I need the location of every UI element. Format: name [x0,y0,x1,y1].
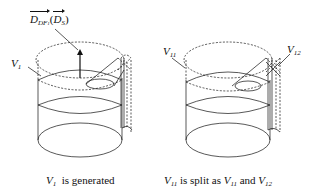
caption-var1: V [164,174,171,186]
caption-text2: and [240,174,256,186]
v11-leader-line [172,58,185,68]
right-cylinder [184,42,280,157]
v12-label-base: V [287,43,294,55]
v1-label-sub: 1 [18,63,22,71]
caption-text1: is split as [180,174,221,186]
caption-var3-sub: 12 [265,180,272,188]
paren-close: ) [65,13,69,25]
vector-arrow-icon [77,49,83,78]
vector-label: DDF1(DS) [30,14,69,27]
left-cylinder [36,42,132,157]
v11-label: V11 [163,46,176,59]
caption-var1-sub: 11 [171,180,177,188]
right-caption: V11 is split as V11 and V12 [164,175,272,188]
v12-label-sub: 12 [294,49,301,57]
v1-label: V1 [11,58,21,71]
v12-label: V12 [287,44,301,57]
caption-var-sub: 1 [53,180,57,188]
left-caption: V1 is generated [46,175,115,188]
vector-arg-sub: S [61,19,65,27]
vector-label-base: D [30,13,38,25]
v11-label-sub: 11 [170,51,176,59]
v1-leader-line [28,67,41,76]
caption-text: is generated [62,174,115,186]
diagram-canvas [0,0,314,190]
vector-leader-line [55,29,78,50]
caption-var3: V [258,174,265,186]
v1-label-base: V [11,57,18,69]
caption-var: V [46,174,53,186]
vector-label-sub: DF [38,19,47,27]
v11-label-base: V [163,45,170,57]
vector-label-subsub: 1 [47,21,50,26]
caption-var2-sub: 11 [230,180,236,188]
